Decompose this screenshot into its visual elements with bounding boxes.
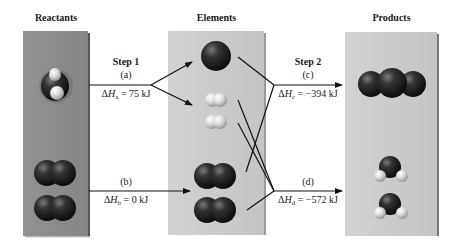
delta-h-symbol: ΔH — [278, 194, 292, 205]
reaction-c-enthalpy: ΔHc = −394 kJ — [272, 88, 344, 99]
enthalpy-value: = 0 kJ — [121, 194, 148, 205]
carbon-atom-icon — [201, 41, 231, 71]
oxygen-molecule-icon — [194, 163, 236, 189]
hess-law-diagram: Reactants Elements Products Step 1 (a) Δ… — [0, 0, 464, 248]
oxygen-molecule-icon — [194, 197, 236, 223]
delta-h-symbol: ΔH — [278, 88, 292, 99]
hydrogen-molecule-icon — [205, 93, 227, 107]
delta-h-symbol: ΔH — [102, 88, 116, 99]
reaction-d-enthalpy: ΔHd = −572 kJ — [272, 194, 344, 205]
enthalpy-value: = −394 kJ — [295, 88, 338, 99]
reaction-b-label: (b) — [96, 176, 156, 187]
oxygen-molecule-icon — [34, 195, 76, 221]
reaction-a-label: (a) — [96, 69, 156, 80]
delta-h-symbol: ΔH — [104, 194, 118, 205]
reaction-c-label: (c) — [278, 69, 338, 80]
step-1-label: Step 1 — [96, 56, 156, 67]
diagram-graphics — [0, 0, 464, 248]
carbon-dioxide-molecule-icon — [358, 68, 426, 98]
elements-header: Elements — [168, 12, 265, 23]
hydrogen-molecule-icon — [205, 115, 227, 129]
products-header: Products — [345, 12, 438, 23]
step-2-label: Step 2 — [278, 56, 338, 67]
reaction-d-label: (d) — [278, 176, 338, 187]
reaction-b-enthalpy: ΔHb = 0 kJ — [92, 194, 160, 205]
enthalpy-value: = 75 kJ — [118, 88, 150, 99]
reactants-header: Reactants — [23, 12, 89, 23]
enthalpy-value: = −572 kJ — [295, 194, 338, 205]
oxygen-molecule-icon — [34, 160, 76, 186]
reaction-a-enthalpy: ΔHa = 75 kJ — [92, 88, 160, 99]
